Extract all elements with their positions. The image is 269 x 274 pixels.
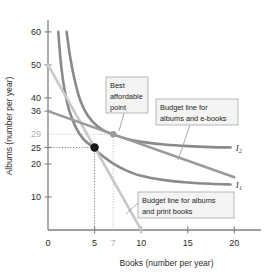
x-tick-label-5: 5 — [92, 238, 97, 248]
callout-line-best-affordable-point: affordable — [110, 92, 143, 101]
callout-line-budget-line-print-books: and print books — [142, 207, 193, 216]
curve-label-I2: I2 — [235, 143, 242, 154]
x-axis-title: Books (number per year) — [119, 258, 213, 268]
y-tick-label-25: 25 — [31, 143, 41, 153]
callout-line-budget-line-print-books: Budget line for albums — [142, 196, 216, 205]
x-tick-label-10: 10 — [136, 238, 146, 248]
indifference-curve-chart: 6050403629252010057101520 I1I2 Bestaffor… — [0, 0, 269, 274]
data-points-group — [90, 131, 116, 152]
y-axis-title: Albums (number per year) — [4, 76, 14, 175]
y-tick-label-40: 40 — [31, 93, 41, 103]
leader-line-best-affordable-point — [119, 113, 124, 131]
y-tick-label-36: 36 — [31, 106, 41, 116]
guide-lines-group — [48, 134, 113, 230]
x-tick-label-0: 0 — [45, 238, 50, 248]
callout-line-best-affordable-point: point — [110, 103, 126, 112]
x-tick-label-20: 20 — [229, 238, 239, 248]
callout-line-budget-line-ebooks: albums and e-books — [160, 114, 227, 123]
leader-line-budget-line-ebooks — [178, 125, 190, 160]
y-tick-label-29: 29 — [31, 129, 41, 139]
y-tick-label-20: 20 — [31, 159, 41, 169]
data-point-best-affordable-point — [90, 143, 98, 151]
curve-labels-group: I1I2 — [235, 143, 242, 191]
curve-label-I1: I1 — [235, 180, 242, 191]
y-tick-label-60: 60 — [31, 27, 41, 37]
data-point-tangency-point-ebooks — [110, 131, 116, 137]
callout-line-budget-line-ebooks: Budget line for — [160, 103, 208, 112]
y-tick-label-50: 50 — [31, 60, 41, 70]
x-tick-label-15: 15 — [183, 238, 193, 248]
chart-container: 6050403629252010057101520 I1I2 Bestaffor… — [0, 0, 269, 274]
y-tick-label-10: 10 — [31, 192, 41, 202]
x-tick-label-7: 7 — [111, 238, 116, 248]
callout-line-best-affordable-point: Best — [110, 81, 125, 90]
series-i2 — [67, 32, 231, 148]
